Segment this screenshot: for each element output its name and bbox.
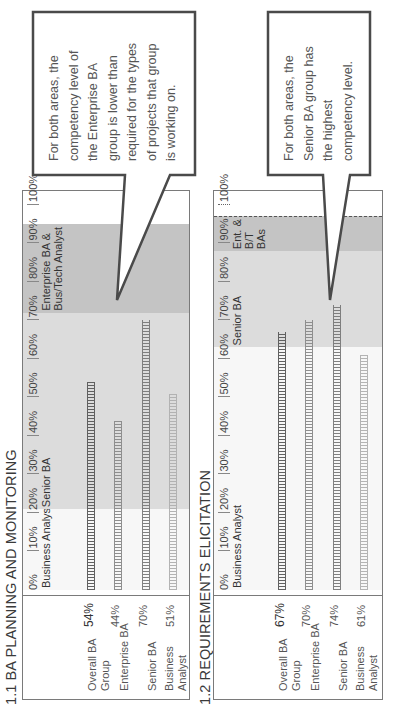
callout-line: group is lower than: [104, 21, 124, 161]
callout-line: of projects that group: [143, 21, 163, 161]
callout-line: For both areas, the: [45, 21, 65, 161]
callout-line: For both areas, the: [280, 21, 300, 161]
callout-2-text: For both areas, theSenior BA group hasth…: [280, 21, 358, 161]
rotated-stage: 1.1 BA PLANNING AND MONITORING Overall B…: [0, 0, 397, 709]
callout-1-text: For both areas, thecompetency level ofth…: [45, 21, 182, 161]
callout-line: Senior BA group has: [300, 21, 320, 161]
callout-line: the highest: [319, 21, 339, 161]
callout-line: competency level.: [339, 21, 359, 161]
callout-line: is working on.: [162, 21, 182, 161]
callout-line: required for the types: [123, 21, 143, 161]
callout-line: the Enterprise BA: [84, 21, 104, 161]
callout-line: competency level of: [65, 21, 85, 161]
